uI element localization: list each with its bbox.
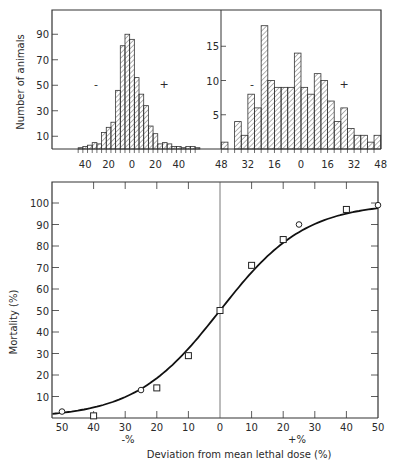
circle-marker	[59, 409, 65, 415]
square-marker	[185, 353, 191, 359]
histogram-bar	[111, 122, 116, 149]
main-y-axis-label: Mortality (%)	[8, 290, 19, 355]
histogram-bar	[288, 87, 295, 149]
histogram-bar	[308, 94, 315, 149]
x-tick-label: 50	[372, 422, 385, 433]
left-plus-sign: +	[159, 78, 168, 91]
x-tick-label: 40	[87, 422, 100, 433]
y-tick-label: 60	[36, 284, 49, 295]
histogram-bar	[328, 101, 335, 149]
fitted-curve	[53, 208, 379, 414]
histogram-bar	[120, 46, 125, 149]
x-tick-label: 20	[149, 159, 162, 170]
y-tick-label: 10	[36, 392, 49, 403]
square-marker	[154, 385, 160, 391]
histogram-bar	[334, 122, 341, 149]
x-tick-label: 0	[217, 422, 223, 433]
square-marker	[249, 262, 255, 268]
x-tick-label: 30	[119, 422, 132, 433]
histogram-bar	[248, 94, 255, 149]
histogram-bar	[314, 74, 321, 149]
y-tick-label: 50	[36, 80, 49, 91]
right-histogram	[221, 26, 380, 153]
histogram-bar	[374, 135, 381, 149]
histogram-bar	[162, 143, 167, 149]
x-tick-label: 20	[150, 422, 163, 433]
histogram-bar	[116, 90, 121, 149]
histogram-bar	[354, 135, 361, 149]
main-series	[53, 202, 381, 419]
plus-percent-label: +%	[288, 434, 306, 445]
histogram-bar	[106, 127, 111, 149]
histogram-bar	[102, 132, 107, 149]
y-tick-label: 5	[213, 110, 219, 121]
histogram-bar	[130, 39, 135, 149]
x-tick-label: 32	[242, 159, 255, 170]
x-tick-label: 20	[277, 422, 290, 433]
histogram-bar	[367, 142, 374, 149]
histogram-bar	[92, 143, 97, 149]
x-tick-label: 20	[102, 159, 115, 170]
y-tick-label: 70	[36, 55, 49, 66]
x-tick-label: 30	[308, 422, 321, 433]
mortality-figure: Number of animals - + - + 40200204010305…	[0, 0, 399, 466]
histogram-bar	[241, 135, 248, 149]
square-marker	[343, 206, 349, 212]
x-tick-label: 48	[374, 159, 387, 170]
histogram-bar	[235, 122, 242, 149]
x-tick-label: 40	[79, 159, 92, 170]
x-tick-label: 40	[340, 422, 353, 433]
x-tick-label: 0	[129, 159, 135, 170]
y-tick-label: 10	[36, 131, 49, 142]
y-tick-label: 40	[36, 327, 49, 338]
histogram-bar	[268, 81, 275, 150]
x-tick-label: 40	[172, 159, 185, 170]
histogram-bar	[134, 78, 139, 149]
y-tick-label: 10	[206, 76, 219, 87]
y-tick-label: 70	[36, 263, 49, 274]
y-tick-label: 30	[36, 106, 49, 117]
histogram-bar	[301, 87, 308, 149]
circle-marker	[296, 222, 302, 228]
x-tick-label: 16	[321, 159, 334, 170]
histogram-bar	[97, 144, 102, 149]
right-plus-sign: +	[339, 78, 348, 91]
histogram-bar	[88, 145, 93, 149]
histogram-bar	[294, 53, 301, 149]
x-tick-label: 16	[268, 159, 281, 170]
square-marker	[91, 413, 97, 419]
x-tick-label: 48	[215, 159, 228, 170]
y-tick-label: 20	[36, 370, 49, 381]
y-tick-label: 15	[206, 41, 219, 52]
histogram-bar	[148, 126, 153, 149]
histogram-bar	[361, 135, 368, 149]
y-tick-label: 90	[36, 29, 49, 40]
histogram-bar	[341, 108, 348, 149]
x-tick-label: 10	[245, 422, 258, 433]
histogram-bar	[158, 144, 163, 149]
y-tick-label: 30	[36, 349, 49, 360]
square-marker	[217, 308, 223, 314]
circle-marker	[375, 202, 381, 208]
x-tick-label: 10	[182, 422, 195, 433]
circle-marker	[138, 387, 144, 393]
x-tick-label: 32	[348, 159, 361, 170]
main-plot-frame	[52, 182, 378, 418]
histogram-bar	[221, 142, 228, 149]
histogram-bar	[144, 106, 149, 149]
histogram-bar	[255, 108, 262, 149]
histogram-bar	[321, 81, 328, 150]
right-minus-sign: -	[250, 78, 254, 91]
y-tick-label: 90	[36, 220, 49, 231]
left-histogram	[78, 34, 200, 153]
minus-percent-label: -%	[121, 434, 134, 445]
histogram-bar	[347, 128, 354, 149]
histogram-bar	[167, 144, 172, 149]
y-tick-label: 100	[30, 198, 49, 209]
square-marker	[280, 237, 286, 243]
main-x-axis-label: Deviation from mean lethal dose (%)	[147, 449, 332, 460]
top-y-axis-label: Number of animals	[15, 34, 26, 129]
histogram-bar	[274, 87, 281, 149]
histogram-bar	[281, 87, 288, 149]
y-tick-label: 50	[36, 306, 49, 317]
